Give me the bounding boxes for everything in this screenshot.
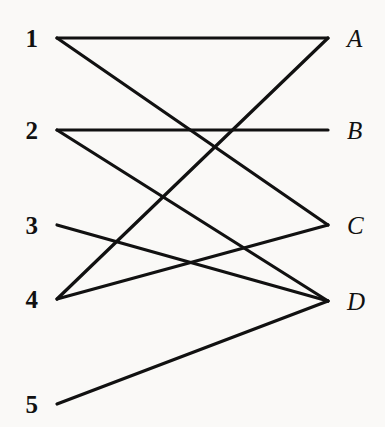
node-label-A: A xyxy=(347,26,362,51)
node-label-2: 2 xyxy=(26,118,39,143)
bipartite-graph-diagram: 12345ABCD xyxy=(0,0,385,427)
node-label-D: D xyxy=(347,289,365,314)
node-label-4: 4 xyxy=(26,287,39,312)
edge-5-D xyxy=(57,301,328,404)
node-label-C: C xyxy=(347,213,364,238)
edge-2-D xyxy=(57,130,328,301)
node-label-1: 1 xyxy=(26,26,39,51)
node-label-B: B xyxy=(347,118,362,143)
edges-group xyxy=(57,38,328,404)
edge-4-A xyxy=(57,38,328,299)
node-label-3: 3 xyxy=(26,213,39,238)
graph-edges-layer xyxy=(0,0,385,427)
node-label-5: 5 xyxy=(26,392,39,417)
